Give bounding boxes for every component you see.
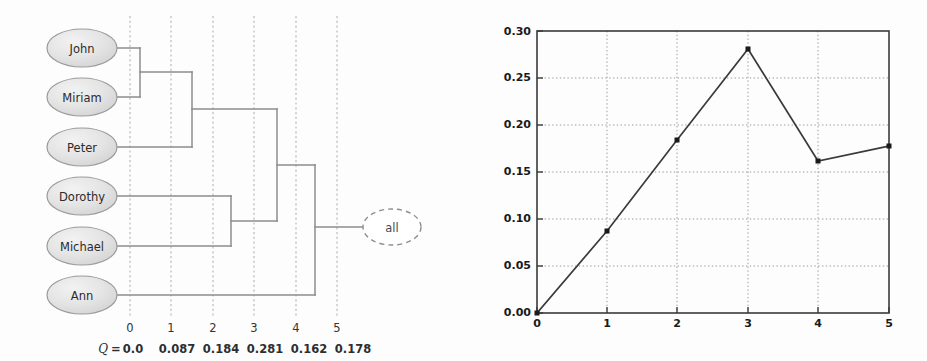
y-ticklabel-0.15: 0.15 <box>504 165 531 178</box>
leaf-node-dorothy[interactable]: Dorothy <box>47 177 117 215</box>
y-ticklabel-0.00: 0.00 <box>504 306 531 319</box>
q-value-4: 0.162 <box>291 342 327 356</box>
dendrogram-links <box>117 48 363 295</box>
data-point-3 <box>746 47 751 52</box>
x-tick-marks <box>537 307 889 313</box>
q-value-5: 0.178 <box>335 342 371 356</box>
modularity-series-markers <box>535 47 892 316</box>
dendrogram-svg: John Miriam Peter Dorothy Michael <box>0 0 460 361</box>
step-gridlines <box>130 16 337 316</box>
line-plot-svg: 0.00 0.05 0.10 0.15 0.20 0.25 0.30 0 1 2… <box>460 0 927 361</box>
y-ticklabel-0.25: 0.25 <box>504 71 531 84</box>
y-ticklabel-0.10: 0.10 <box>504 212 531 225</box>
q-symbol: Q <box>98 342 108 356</box>
q-value-2: 0.184 <box>203 342 239 356</box>
x-ticklabel-3: 3 <box>744 317 752 330</box>
figure-container: John Miriam Peter Dorothy Michael <box>0 0 927 361</box>
x-ticklabel-4: 4 <box>814 317 822 330</box>
dendrogram-panel: John Miriam Peter Dorothy Michael <box>0 0 460 361</box>
root-node-label: all <box>385 221 398 235</box>
y-ticklabel-0.20: 0.20 <box>504 118 531 131</box>
data-point-4 <box>816 159 821 164</box>
q-value-1: 0.087 <box>159 342 195 356</box>
leaf-node-ann[interactable]: Ann <box>47 276 117 314</box>
q-equals-sign: = <box>111 342 121 356</box>
y-tick-labels: 0.00 0.05 0.10 0.15 0.20 0.25 0.30 <box>504 25 531 319</box>
step-tick-1: 1 <box>167 321 174 335</box>
line-plot-panel: 0.00 0.05 0.10 0.15 0.20 0.25 0.30 0 1 2… <box>460 0 927 361</box>
root-node-all[interactable]: all <box>363 209 421 245</box>
x-ticklabel-0: 0 <box>533 317 541 330</box>
y-gridlines <box>537 78 889 266</box>
step-axis-labels: 0 1 2 3 4 5 <box>126 321 340 335</box>
x-tick-labels: 0 1 2 3 4 5 <box>533 317 893 330</box>
data-point-5 <box>887 144 892 149</box>
leaf-label-miriam: Miriam <box>62 91 101 105</box>
leaf-label-john: John <box>68 42 94 56</box>
data-point-1 <box>605 229 610 234</box>
leaf-node-miriam[interactable]: Miriam <box>47 78 117 116</box>
q-value-3: 0.281 <box>247 342 283 356</box>
modularity-value-row: Q = 0.0 0.087 0.184 0.281 0.162 0.178 <box>98 342 371 356</box>
x-ticklabel-1: 1 <box>603 317 611 330</box>
x-ticklabel-5: 5 <box>885 317 893 330</box>
data-point-2 <box>675 138 680 143</box>
dendrogram-leaf-nodes: John Miriam Peter Dorothy Michael <box>47 29 117 314</box>
modularity-series-line <box>537 49 889 313</box>
leaf-label-peter: Peter <box>67 141 97 155</box>
step-tick-2: 2 <box>209 321 216 335</box>
q-value-0: 0.0 <box>123 342 143 356</box>
leaf-node-michael[interactable]: Michael <box>47 227 117 265</box>
step-tick-4: 4 <box>292 321 299 335</box>
step-tick-0: 0 <box>126 321 133 335</box>
leaf-node-john[interactable]: John <box>47 29 117 67</box>
leaf-label-ann: Ann <box>71 289 93 303</box>
leaf-label-michael: Michael <box>60 240 104 254</box>
step-tick-5: 5 <box>333 321 340 335</box>
leaf-node-peter[interactable]: Peter <box>47 128 117 166</box>
data-point-0 <box>535 311 540 316</box>
x-ticklabel-2: 2 <box>673 317 681 330</box>
leaf-label-dorothy: Dorothy <box>59 190 105 204</box>
y-tick-marks <box>537 31 543 313</box>
step-tick-3: 3 <box>250 321 257 335</box>
y-ticklabel-0.05: 0.05 <box>504 259 531 272</box>
y-ticklabel-0.30: 0.30 <box>504 25 531 38</box>
